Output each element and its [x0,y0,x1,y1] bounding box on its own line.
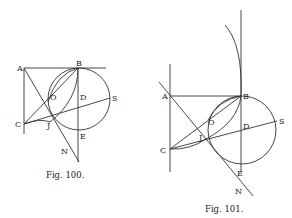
label-A: A [161,92,168,101]
label-B: B [76,59,82,68]
figure-caption: Fig. 101. [205,204,243,214]
arc-upper [225,25,241,97]
label-D: D [243,122,249,131]
label-C: C [160,146,166,155]
label-E: E [237,169,243,178]
circle [48,68,110,130]
label-O: O [208,118,215,127]
label-J: J [46,121,50,130]
label-C: C [15,120,21,129]
figure-101: A B C D E N O J S Fig. 101. [159,10,284,214]
diagram-canvas: A B C D E N O J S Fig. 100. A B C D E N … [0,0,292,218]
label-D: D [80,93,86,102]
figure-caption: Fig. 100. [46,170,84,180]
label-O: O [50,93,57,102]
line-CS [170,121,277,149]
label-A: A [16,64,23,73]
line-CB [170,96,241,149]
label-N: N [61,147,68,156]
label-S: S [112,94,117,103]
label-J: J [198,133,202,142]
label-N: N [235,187,242,196]
label-E: E [80,132,86,141]
label-B: B [243,92,249,101]
figure-100: A B C D E N O J S Fig. 100. [15,59,117,180]
label-S: S [279,117,284,126]
